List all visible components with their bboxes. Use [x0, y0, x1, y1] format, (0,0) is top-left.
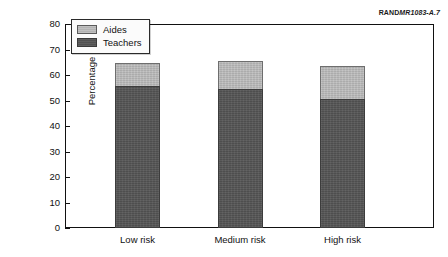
bar-segment-aides: [320, 66, 365, 99]
y-tick-label: 70: [36, 44, 60, 55]
y-tick-label: 80: [36, 18, 60, 29]
y-tick-mark: [65, 50, 70, 51]
y-tick-mark: [65, 228, 70, 229]
bar-segment-teachers: [218, 89, 263, 228]
y-tick-mark: [65, 203, 70, 204]
bar-segment-aides: [218, 61, 263, 89]
y-tick-label: 0: [36, 222, 60, 233]
legend-item-teachers: Teachers: [77, 36, 142, 49]
y-tick-label: 60: [36, 69, 60, 80]
chart-legend: Aides Teachers: [71, 19, 150, 54]
legend-label-teachers: Teachers: [103, 37, 142, 48]
y-tick-label: 40: [36, 120, 60, 131]
credit-document-number: MR1083-A.7: [399, 9, 440, 16]
y-tick-label: 50: [36, 95, 60, 106]
stacked-bar: [115, 63, 160, 228]
bar-segment-teachers: [320, 99, 365, 228]
legend-swatch-teachers-icon: [77, 38, 97, 47]
stacked-bar: [218, 61, 263, 228]
stacked-bar: [320, 66, 365, 228]
y-tick-label: 20: [36, 171, 60, 182]
bar-segment-aides: [115, 63, 160, 86]
legend-swatch-aides-icon: [77, 25, 97, 34]
bar-segment-teachers: [115, 86, 160, 228]
rand-credit-line: RANDMR1083-A.7: [379, 9, 440, 16]
credit-org: RAND: [379, 9, 400, 16]
figure-container: RANDMR1083-A.7 Percentage of staff 01020…: [0, 0, 448, 257]
y-tick-mark: [65, 75, 70, 76]
y-tick-mark: [65, 126, 70, 127]
y-tick-mark: [65, 177, 70, 178]
y-tick-mark: [65, 152, 70, 153]
legend-item-aides: Aides: [77, 23, 142, 36]
y-tick-label: 30: [36, 146, 60, 157]
y-tick-mark: [65, 101, 70, 102]
y-tick-mark: [65, 24, 70, 25]
legend-label-aides: Aides: [103, 24, 127, 35]
x-tick-label: High risk: [283, 234, 403, 245]
y-tick-label: 10: [36, 197, 60, 208]
